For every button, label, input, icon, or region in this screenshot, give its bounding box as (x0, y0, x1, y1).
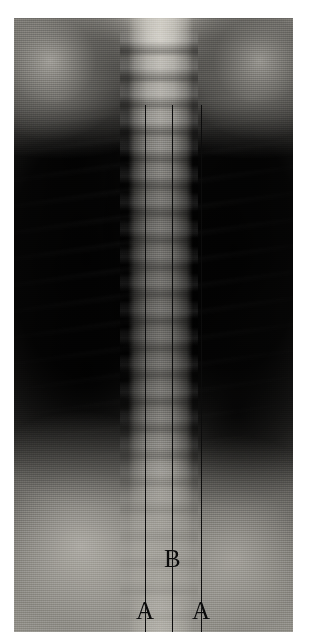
annotation-overlay: A B A (14, 18, 293, 632)
left-paraspinal-line (145, 105, 146, 632)
label-b: B (164, 546, 181, 571)
label-a-right: A (192, 598, 210, 623)
right-paraspinal-line (201, 105, 202, 632)
xray-image-plate: A B A (14, 18, 293, 632)
label-a-left: A (136, 598, 154, 623)
radiograph-figure: A B A (0, 0, 311, 644)
